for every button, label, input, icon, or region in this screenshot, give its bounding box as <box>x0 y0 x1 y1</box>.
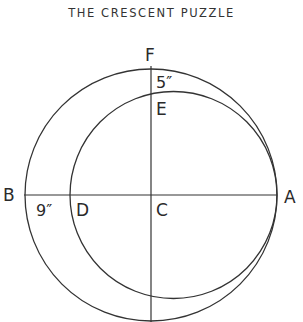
label-fe-measure: 5″ <box>156 73 172 92</box>
label-e: E <box>156 99 167 119</box>
crescent-diagram: F 5″ E B 9″ D C A <box>0 0 303 322</box>
label-f: F <box>145 45 155 65</box>
label-bd-measure: 9″ <box>36 201 52 220</box>
label-c: C <box>156 200 168 220</box>
label-d: D <box>76 200 89 220</box>
label-a: A <box>284 187 296 207</box>
label-b: B <box>3 185 15 205</box>
